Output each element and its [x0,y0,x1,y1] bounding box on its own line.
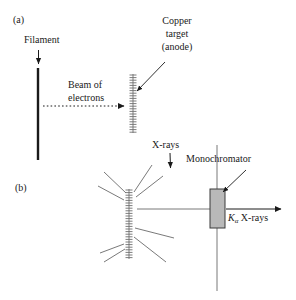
k-alpha-subscript: α [235,217,239,225]
copper-target-label-line2: target [146,28,208,39]
copper-target-label-line3: (anode) [146,41,208,52]
beam-label-line2: electrons [68,92,104,103]
monochromator-label: Monochromator [186,153,251,164]
filament-label: Filament [24,34,60,45]
xray-fan-lines [98,165,174,262]
copper-target-label-line1: Copper [146,15,208,26]
k-alpha-xrays-label: Kα X-rays [228,212,268,224]
monochromator-leader-arrow [223,170,246,192]
k-alpha-suffix: X-rays [238,212,268,223]
k-alpha-symbol: K [228,212,235,223]
panel-label-a: (a) [13,14,24,25]
copper-target-anode-b [126,189,133,259]
xrays-leader-arrow [170,153,171,168]
xray-monochromator-figure: (a) Filament Beam of electrons Copper ta… [0,0,296,300]
copper-target-anode [130,74,137,133]
monochromator-crystal [210,189,225,228]
beam-label-line1: Beam of [68,79,102,90]
xrays-label: X-rays [152,139,179,150]
copper-target-leader-arrow [137,62,165,91]
panel-label-b: (b) [15,182,27,193]
